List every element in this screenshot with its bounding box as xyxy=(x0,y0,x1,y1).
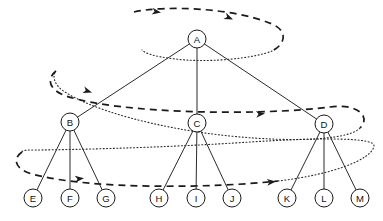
node-label-m: M xyxy=(356,193,364,204)
tree-node-k[interactable]: K xyxy=(278,189,296,207)
tree-edge-c-h xyxy=(163,131,193,190)
loop-level-0-dashed-arc xyxy=(134,8,283,51)
loop-level-2-dotted-arc xyxy=(22,139,374,181)
tree-node-i[interactable]: I xyxy=(187,189,205,207)
tree-node-b[interactable]: B xyxy=(61,113,79,131)
loop-level-0-arrowhead-2 xyxy=(223,13,234,23)
tree-node-f[interactable]: F xyxy=(61,189,79,207)
tree-edge-c-i xyxy=(196,132,197,189)
loop-level-1-dotted-arc xyxy=(54,71,360,139)
tree-node-h[interactable]: H xyxy=(150,189,168,207)
tree-edge-b-e xyxy=(37,130,66,190)
loop-level-0-dotted-arc xyxy=(142,50,272,61)
tree-edge-a-b xyxy=(78,44,190,117)
node-label-c: C xyxy=(194,118,201,129)
tree-node-d[interactable]: D xyxy=(315,115,333,133)
tree-edge-c-j xyxy=(201,131,228,190)
tree-edge-d-k xyxy=(291,132,320,190)
tree-node-c[interactable]: C xyxy=(188,114,206,132)
tree-node-e[interactable]: E xyxy=(24,189,42,207)
node-label-j: J xyxy=(230,193,235,204)
node-label-f: F xyxy=(67,193,73,204)
node-label-a: A xyxy=(194,34,201,45)
node-label-k: K xyxy=(284,193,291,204)
tree-node-m[interactable]: M xyxy=(351,189,369,207)
tree-spiral-diagram: ABCDEFGHIJKLM xyxy=(0,0,383,221)
node-label-i: I xyxy=(195,193,198,204)
node-label-h: H xyxy=(156,193,163,204)
diagram-root: ABCDEFGHIJKLM xyxy=(0,0,383,221)
tree-edge-a-d xyxy=(204,44,316,119)
loop-level-2-dashed-arc xyxy=(16,152,278,186)
tree-node-a[interactable]: A xyxy=(188,30,206,48)
tree-edge-d-m xyxy=(328,132,356,190)
loop-level-1-arrowhead-1 xyxy=(82,87,93,96)
node-label-e: E xyxy=(30,193,36,204)
node-label-b: B xyxy=(67,117,73,128)
loop-level-0 xyxy=(134,8,283,61)
loop-level-2-arrowhead-1 xyxy=(75,175,85,183)
tree-node-j[interactable]: J xyxy=(223,189,241,207)
tree-node-l[interactable]: L xyxy=(315,189,333,207)
node-label-d: D xyxy=(321,119,328,130)
node-label-g: G xyxy=(102,193,109,204)
tree-node-g[interactable]: G xyxy=(97,189,115,207)
node-label-l: L xyxy=(321,193,326,204)
